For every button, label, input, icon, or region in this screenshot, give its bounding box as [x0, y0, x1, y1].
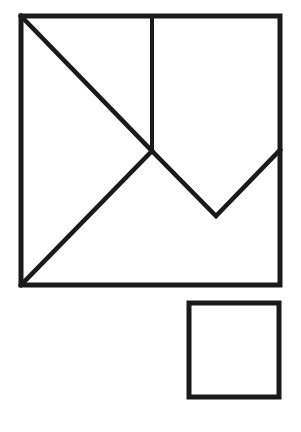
geometry-diagram	[0, 0, 301, 432]
diagonal-bottom-left-line	[21, 151, 152, 285]
v-notch-line	[152, 150, 280, 216]
diagonal-top-left-line	[21, 16, 152, 151]
small-square	[189, 303, 279, 397]
